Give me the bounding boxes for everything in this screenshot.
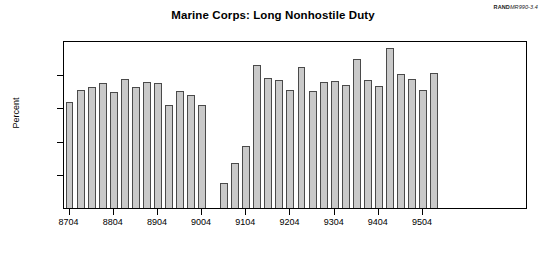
bar <box>331 81 339 208</box>
y-tick-mark <box>57 142 63 143</box>
bar <box>275 80 283 208</box>
y-tick-mark <box>57 175 63 176</box>
bar <box>143 82 151 208</box>
bar <box>253 65 261 208</box>
bar <box>110 92 118 208</box>
bars-layer <box>64 42 526 208</box>
x-tick-mark <box>113 209 114 215</box>
bar <box>88 87 96 208</box>
bar <box>364 80 372 208</box>
bar <box>198 105 206 208</box>
bar <box>375 86 383 208</box>
y-axis-title: Percent <box>11 73 21 153</box>
x-tick-mark <box>157 209 158 215</box>
x-tick-mark <box>378 209 379 215</box>
bar <box>298 67 306 208</box>
bar <box>242 146 250 208</box>
x-tick-mark <box>334 209 335 215</box>
x-tick-label: 9504 <box>392 218 452 227</box>
bar <box>231 163 239 208</box>
chart-figure: RANDMR990-3.4 Marine Corps: Long Nonhost… <box>0 0 546 253</box>
bar <box>408 79 416 208</box>
x-tick-mark <box>69 209 70 215</box>
x-tick-mark <box>201 209 202 215</box>
bar <box>386 48 394 208</box>
bar <box>419 90 427 208</box>
bar <box>132 87 140 208</box>
bar <box>309 91 317 208</box>
bar <box>342 85 350 208</box>
x-tick-mark <box>289 209 290 215</box>
bar <box>99 83 107 208</box>
bar <box>430 73 438 208</box>
bar <box>264 78 272 208</box>
x-tick-mark <box>422 209 423 215</box>
x-tick-mark <box>245 209 246 215</box>
bar <box>187 95 195 208</box>
bar <box>176 91 184 208</box>
plot-area <box>63 41 527 209</box>
bar <box>220 183 228 208</box>
bar <box>66 102 74 208</box>
bar <box>121 79 129 208</box>
bar <box>286 90 294 208</box>
chart-title: Marine Corps: Long Nonhostile Duty <box>0 9 546 21</box>
bar <box>154 83 162 208</box>
bar <box>165 105 173 208</box>
bar <box>320 82 328 208</box>
bar <box>397 74 405 208</box>
bar <box>77 90 85 208</box>
y-tick-mark <box>57 108 63 109</box>
bar <box>353 59 361 208</box>
y-tick-mark <box>57 75 63 76</box>
